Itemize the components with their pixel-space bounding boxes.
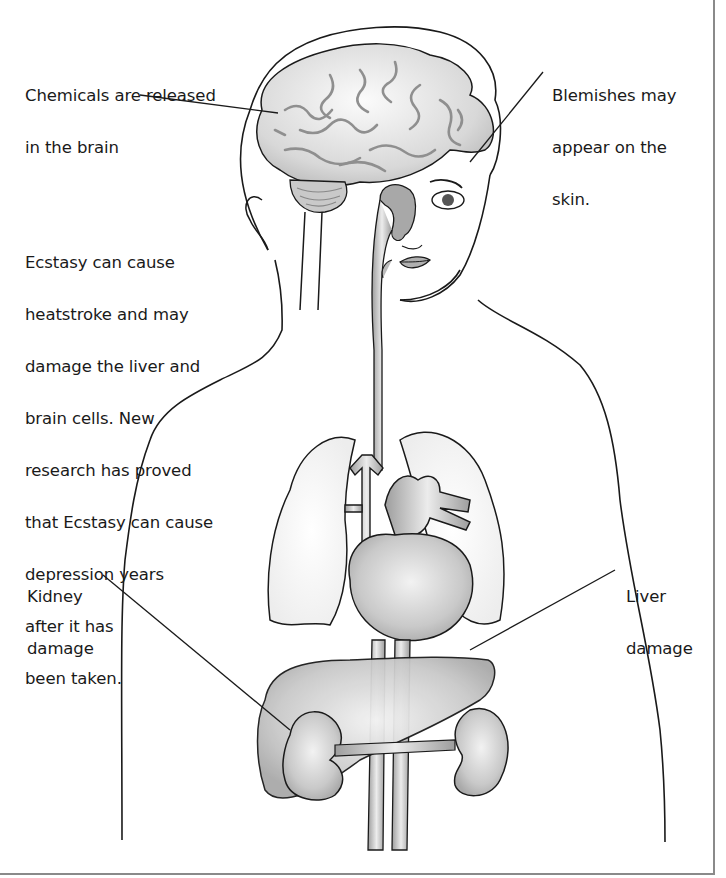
label-line: appear on the: [552, 135, 676, 161]
brainstem: [300, 212, 322, 310]
note-line: brain cells. New: [25, 406, 213, 432]
note-line: research has proved: [25, 458, 213, 484]
note-line: damage the liver and: [25, 354, 213, 380]
label-line: Blemishes may: [552, 83, 676, 109]
brain: [257, 44, 494, 213]
note-line: that Ecstasy can cause: [25, 510, 213, 536]
label-line: Chemicals are released: [25, 83, 216, 109]
label-line: damage: [27, 636, 94, 662]
trachea: [345, 455, 383, 545]
label-line: Kidney: [27, 584, 94, 610]
label-line: Liver: [626, 584, 693, 610]
label-blemishes-skin: Blemishes may appear on the skin.: [552, 57, 676, 239]
esophagus: [372, 185, 415, 470]
ear: [246, 197, 268, 250]
label-line: in the brain: [25, 135, 216, 161]
label-kidney-damage: Kidney damage: [27, 558, 94, 688]
label-line: skin.: [552, 187, 676, 213]
label-chemicals-brain: Chemicals are released in the brain: [25, 57, 216, 187]
label-line: damage: [626, 636, 693, 662]
note-line: Ecstasy can cause: [25, 250, 213, 276]
label-liver-damage: Liver damage: [626, 558, 693, 688]
note-line: heatstroke and may: [25, 302, 213, 328]
